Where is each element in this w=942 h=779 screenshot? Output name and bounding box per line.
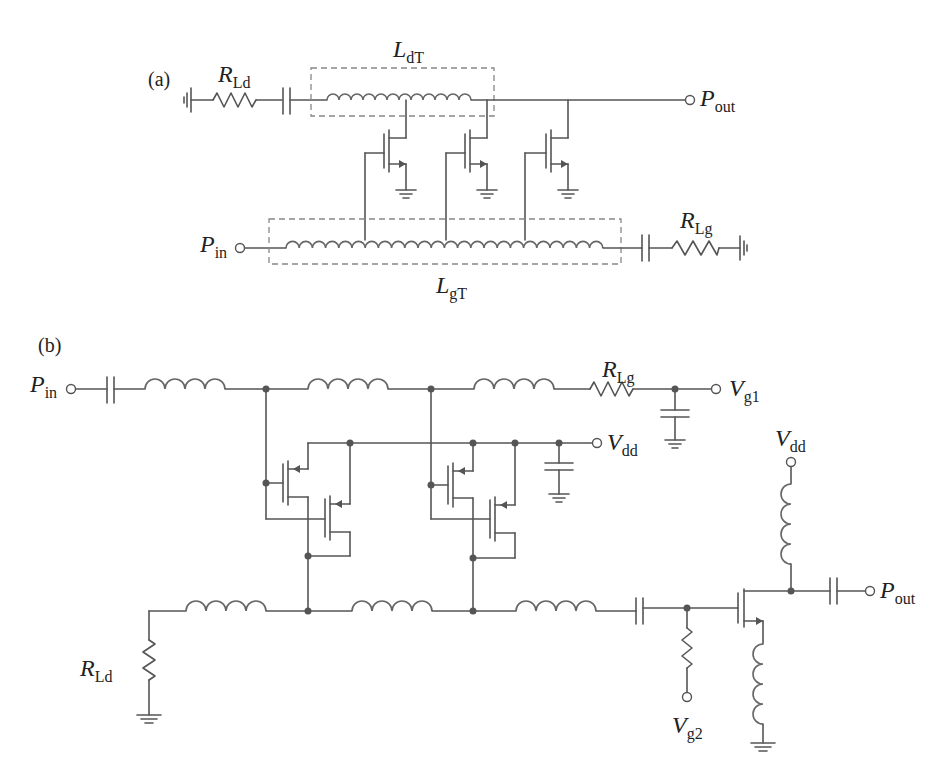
inductor-drain-1: [186, 601, 266, 611]
inductor-drain-line: [327, 94, 471, 100]
panel-b: (b) Pin RLg Vg1: [29, 334, 916, 751]
panel-a: (a) RLd LdT Pout: [148, 36, 747, 303]
port-Pin-a: [236, 244, 245, 253]
label-Vg1: Vg1: [729, 375, 760, 406]
drain-line-box: [311, 68, 494, 116]
cascode-cell-2: [428, 389, 516, 611]
label-Vdd-1: Vdd: [607, 429, 638, 459]
label-Pout-a: Pout: [699, 85, 736, 115]
output-transistor: [738, 589, 791, 751]
port-Pin-b: [67, 385, 76, 394]
label-Pin-a: Pin: [199, 231, 227, 261]
label-RLg-a: RLg: [679, 207, 712, 238]
panel-a-label: (a): [148, 68, 170, 91]
resistor-RLd: [213, 93, 256, 107]
label-LdT: LdT: [392, 36, 424, 66]
port-Pout-b: [866, 587, 875, 596]
schematic-canvas: (a) RLd LdT Pout: [0, 0, 942, 779]
inductor-gate-1: [145, 379, 225, 389]
port-Pout-a: [686, 96, 695, 105]
port-Vdd-1: [593, 439, 602, 448]
port-Vdd-2: [787, 458, 796, 467]
capacitor-a-drain: [283, 88, 290, 114]
label-Pin-b: Pin: [29, 371, 57, 401]
cascode-cell-1: [263, 389, 351, 611]
label-Vg2: Vg2: [672, 712, 703, 743]
inductor-source: [753, 644, 763, 724]
label-Vdd-2: Vdd: [775, 425, 806, 455]
resistor-vg2: [682, 628, 692, 668]
decoupling-capacitor-vdd: [545, 443, 573, 502]
resistor-RLg-a: [672, 241, 719, 255]
inductor-gate-line: [286, 241, 603, 248]
label-LgT: LgT: [435, 272, 467, 303]
label-RLd-a: RLd: [217, 61, 250, 91]
circuit-figure: (a) RLd LdT Pout: [0, 0, 942, 779]
capacitor-b-input: [107, 377, 114, 403]
label-RLg-b: RLg: [601, 356, 634, 387]
port-Vg2: [683, 693, 692, 702]
capacitor-a-gate: [642, 235, 649, 261]
coupling-capacitor-stage2: [636, 598, 643, 624]
inductor-gate-2: [308, 379, 388, 389]
gate-termination-ground-icon: [740, 236, 747, 260]
inductor-drain-3: [516, 601, 596, 611]
drain-termination-ground-icon: [184, 88, 191, 112]
inductor-drain-2: [352, 601, 432, 611]
resistor-RLd-b: [143, 640, 155, 680]
decoupling-capacitor-vg1: [661, 389, 689, 448]
inductor-gate-3: [474, 379, 554, 389]
panel-b-label: (b): [38, 334, 61, 357]
port-Vg1: [712, 385, 721, 394]
label-Pout-b: Pout: [879, 577, 916, 607]
coupling-capacitor-output: [830, 578, 837, 604]
inductor-vdd-choke: [781, 484, 791, 564]
ground-RLd-icon: [137, 715, 161, 723]
label-RLd-b: RLd: [79, 655, 112, 685]
